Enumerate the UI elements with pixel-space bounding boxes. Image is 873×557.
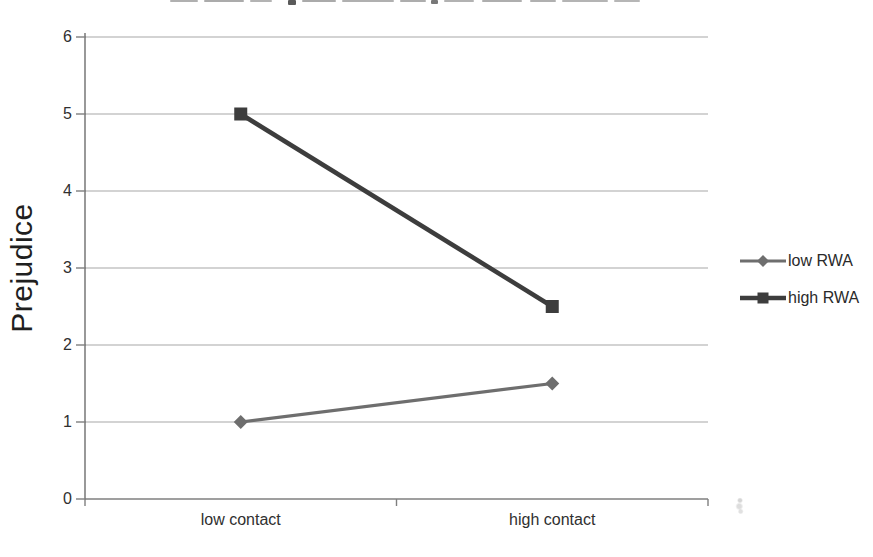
y-tick-label: 2 — [63, 337, 72, 353]
y-tick-label: 6 — [63, 29, 72, 45]
legend-key-square-icon — [740, 290, 786, 306]
y-tick-label: 3 — [63, 260, 72, 276]
y-tick-label: 5 — [63, 106, 72, 122]
diamond-marker — [234, 415, 248, 429]
y-tick-label: 4 — [63, 183, 72, 199]
x-category-label: high contact — [482, 511, 622, 529]
legend-key-diamond-icon — [740, 253, 786, 269]
y-tick-label: 1 — [63, 414, 72, 430]
legend-label: low RWA — [788, 252, 853, 270]
series-line-low-rwa — [241, 384, 553, 423]
legend-item-high-rwa: high RWA — [740, 288, 859, 308]
series-line-high-rwa — [241, 114, 553, 307]
legend-label: high RWA — [788, 289, 859, 307]
scan-artifact — [733, 497, 747, 514]
legend: low RWAhigh RWA — [740, 251, 859, 308]
square-marker — [234, 108, 247, 121]
x-category-label: low contact — [171, 511, 311, 529]
legend-item-low-rwa: low RWA — [740, 251, 859, 271]
chart-figure: Prejudice 0123456 low contacthigh contac… — [0, 0, 873, 557]
y-tick-label: 0 — [63, 491, 72, 507]
square-marker — [546, 300, 559, 313]
diamond-marker — [545, 377, 559, 391]
